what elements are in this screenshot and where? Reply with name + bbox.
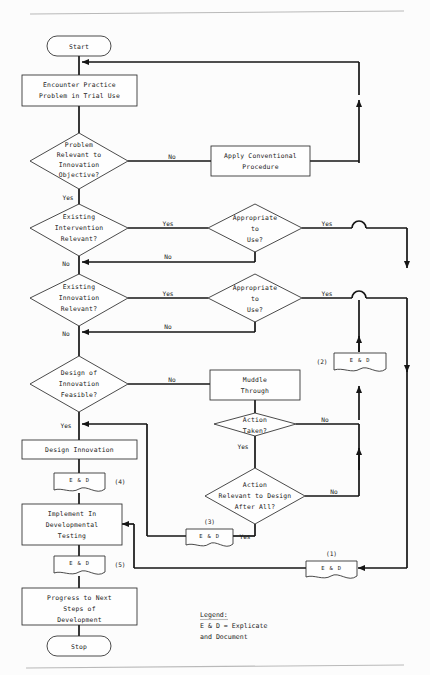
action-taken-line2: Taken? (243, 427, 267, 435)
node-apply-conventional-procedure[interactable]: Apply Conventional Procedure (211, 146, 310, 176)
progress-line2: Steps of (63, 605, 95, 613)
legend: Legend: E & D = Explicate and Document (200, 611, 268, 641)
design-feasible-line1: Design of (61, 369, 97, 377)
existing-innovation-line2: Innovation (59, 294, 99, 302)
encounter-process-shape (22, 75, 137, 106)
existing-innovation-line3: Relevant? (61, 305, 97, 313)
label-problem-yes: Yes (62, 194, 73, 201)
appropriate-1-line1: Appropriate (233, 214, 278, 222)
ed-3-ref: (3) (204, 518, 215, 525)
label-action-relevant-yes: Yes (239, 533, 250, 540)
label-appr2-no: No (164, 323, 172, 330)
ed-1-label: E & D (321, 565, 342, 571)
node-ed-3[interactable]: E & D (3) (186, 518, 233, 546)
implement-line1: Implement In (48, 510, 97, 518)
start-label: Start (69, 43, 89, 51)
node-start[interactable]: Start (47, 36, 111, 56)
appropriate-2-line2: to (251, 295, 259, 303)
existing-intervention-line3: Relevant? (61, 235, 97, 243)
appropriate-1-line3: Use? (247, 236, 263, 244)
edge-appr1-yes-hop (352, 221, 366, 228)
node-muddle-through[interactable]: Muddle Through (210, 370, 300, 400)
problem-relevant-line4: Objective? (59, 171, 99, 179)
design-feasible-line2: Innovation (59, 380, 99, 388)
label-feasible-no: No (168, 376, 176, 383)
apply-conventional-process-shape (211, 146, 310, 176)
node-appropriate-to-use-2[interactable]: Appropriate to Use? (208, 274, 302, 322)
ed-4-label: E & D (69, 477, 90, 483)
muddle-through-line2: Through (241, 387, 269, 395)
appropriate-2-line3: Use? (247, 306, 263, 314)
legend-line2: and Document (200, 633, 248, 641)
encounter-label-line2: Problem in Trial Use (39, 92, 120, 100)
label-appr1-yes: Yes (321, 220, 332, 227)
stop-label: Stop (71, 643, 87, 651)
bottom-rule (26, 665, 404, 668)
node-implement-developmental-testing[interactable]: Implement In Developmental Testing (22, 504, 122, 545)
ed-1-ref: (1) (326, 550, 337, 557)
problem-relevant-line3: Innovation (59, 161, 99, 169)
edge-appr2-yes-hop (352, 291, 366, 298)
node-appropriate-to-use-1[interactable]: Appropriate to Use? (208, 204, 302, 252)
node-ed-1[interactable]: E & D (1) (306, 550, 357, 578)
label-intervention-no: No (62, 260, 70, 267)
flowchart-canvas: Start Encounter Practice Problem in Tria… (0, 0, 430, 675)
progress-line3: Development (57, 616, 102, 624)
node-progress-next-steps[interactable]: Progress to Next Steps of Development (22, 588, 137, 625)
appropriate-1-line2: to (251, 225, 259, 233)
label-problem-no: No (168, 153, 176, 160)
node-action-taken-decision[interactable]: Action Taken? (214, 413, 296, 436)
muddle-through-process-shape (210, 370, 300, 400)
flowchart-page: Start Encounter Practice Problem in Tria… (0, 0, 430, 675)
action-taken-line1: Action (243, 416, 267, 424)
ed-5-label: E & D (69, 560, 90, 566)
problem-relevant-line1: Problem (65, 141, 93, 149)
label-innovation-yes: Yes (162, 290, 173, 297)
action-relevant-line2: Relevant to Design (219, 492, 292, 500)
design-innovation-line1: Design Innovation (45, 446, 114, 454)
implement-line3: Testing (58, 532, 86, 540)
action-relevant-line1: Action (243, 481, 267, 489)
label-action-taken-no: No (321, 416, 329, 423)
label-feasible-yes: Yes (60, 422, 71, 429)
node-action-relevant-decision[interactable]: Action Relevant to Design After All? (205, 468, 305, 524)
implement-line2: Developmental (46, 521, 99, 529)
ed-3-label: E & D (199, 533, 220, 539)
node-design-feasible-decision[interactable]: Design of Innovation Feasible? (30, 356, 128, 412)
progress-line1: Progress to Next (47, 594, 112, 602)
legend-line1: E & D = Explicate (200, 622, 268, 630)
node-existing-intervention-decision[interactable]: Existing Intervention Relevant? (30, 204, 128, 256)
node-stop[interactable]: Stop (47, 636, 111, 656)
muddle-through-line1: Muddle (243, 376, 267, 384)
action-relevant-line3: After All? (235, 503, 275, 511)
problem-relevant-line2: Relevant to (57, 151, 102, 159)
ed-2-label: E & D (350, 357, 371, 363)
top-rule (30, 11, 404, 14)
design-feasible-line3: Feasible? (61, 391, 97, 399)
label-action-taken-yes: Yes (237, 443, 248, 450)
node-encounter-practice-problem[interactable]: Encounter Practice Problem in Trial Use (22, 75, 137, 106)
edges (79, 56, 407, 636)
ed-5-ref: (5) (114, 561, 125, 568)
node-ed-5[interactable]: E & D (5) (54, 556, 126, 574)
label-appr2-yes: Yes (321, 290, 332, 297)
node-ed-4[interactable]: E & D (4) (54, 473, 126, 491)
existing-intervention-line2: Intervention (55, 224, 104, 232)
ed-4-ref: (4) (114, 478, 125, 485)
node-existing-innovation-decision[interactable]: Existing Innovation Relevant? (30, 274, 128, 326)
appropriate-2-line1: Appropriate (233, 284, 278, 292)
existing-innovation-line1: Existing (63, 283, 95, 291)
legend-heading: Legend: (200, 611, 228, 619)
label-action-relevant-no: No (330, 488, 338, 495)
node-problem-relevant-decision[interactable]: Problem Relevant to Innovation Objective… (30, 133, 128, 189)
node-ed-2[interactable]: E & D (2) (316, 353, 386, 371)
label-appr1-no: No (164, 253, 172, 260)
apply-conventional-line1: Apply Conventional (224, 152, 297, 160)
encounter-label-line1: Encounter Practice (43, 81, 116, 89)
ed-2-ref: (2) (316, 358, 327, 365)
apply-conventional-line2: Procedure (242, 163, 278, 171)
label-innovation-no: No (62, 330, 70, 337)
label-intervention-yes: Yes (162, 220, 173, 227)
existing-intervention-line1: Existing (63, 213, 95, 221)
node-design-innovation[interactable]: Design Innovation (22, 440, 137, 459)
